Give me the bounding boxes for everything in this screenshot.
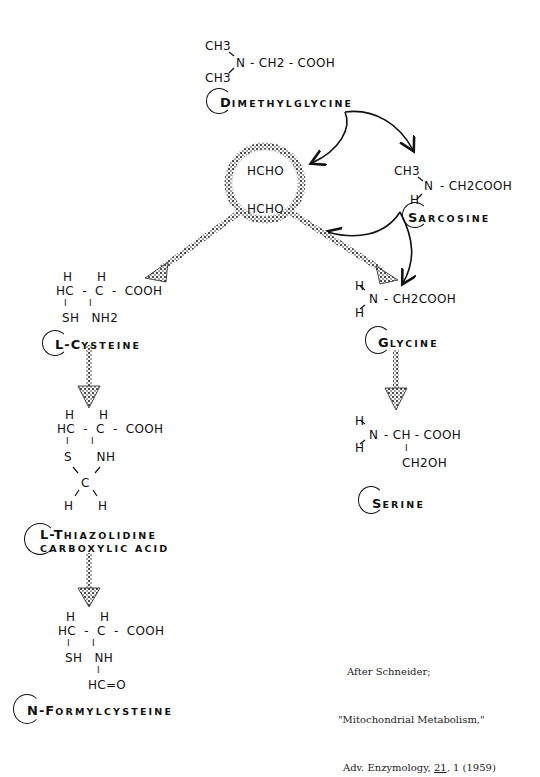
thz-row3: I I xyxy=(66,437,94,446)
sar-ch3: CH3 xyxy=(394,165,420,177)
gly-h-top: H xyxy=(355,280,364,292)
arrow-hcho-to-glycine xyxy=(290,212,382,270)
nfc-row5: I xyxy=(97,666,100,675)
citation-line1: After Schneider; xyxy=(343,664,496,680)
ser-h-bottom: H xyxy=(355,442,364,454)
thz-row1: H H xyxy=(65,409,108,421)
nfc-row3: I I xyxy=(67,639,95,648)
hcho-top: HCHO xyxy=(247,165,284,177)
nfc-row4: SH NH xyxy=(65,652,113,664)
ser-side: CH2OH xyxy=(402,457,447,469)
cys-row3: I I xyxy=(64,299,92,308)
thz-row2: HC - C - COOH xyxy=(57,423,163,435)
gly-n: N xyxy=(369,293,378,305)
citation-line3: Adv. Enzymology, 21, 1 (1959) xyxy=(343,760,496,776)
gly-h-bottom: H xyxy=(355,307,364,319)
nfc-row1: H H xyxy=(66,611,109,623)
ser-label: SERINE xyxy=(372,496,425,511)
dmg-n: N xyxy=(236,57,245,69)
ser-h-top: H xyxy=(355,415,364,427)
sar-label: SARCOSINE xyxy=(408,210,491,225)
hcho-bottom: HCHO xyxy=(247,203,284,215)
cys-row4: SH NH2 xyxy=(62,312,118,324)
dmg-chain: - CH2 - COOH xyxy=(250,57,335,69)
gly-label: GLYCINE xyxy=(378,335,439,350)
dmg-ch3-top: CH3 xyxy=(205,40,231,52)
dmg-ch3-bottom: CH3 xyxy=(205,72,231,84)
cys-row2: HC - C - COOH xyxy=(56,285,162,297)
arrow-hcho-to-cysteine xyxy=(162,212,240,268)
ser-n: N xyxy=(369,429,378,441)
dmg-label: DIMETHYLGLYCINE xyxy=(220,95,353,110)
thz-row5: C xyxy=(81,477,90,489)
thz-label-line2: CARBOXYLIC ACID xyxy=(40,543,169,554)
arrow-dmg-to-hcho xyxy=(312,112,347,163)
ser-bar: I xyxy=(405,444,408,453)
citation: After Schneider; "Mitochondrial Metaboli… xyxy=(343,632,496,777)
cys-label: L-CYSTEINE xyxy=(55,337,141,352)
ser-chain: - CH - COOH xyxy=(384,429,461,441)
thz-row4: S NH xyxy=(64,451,115,463)
thz-label-line1: L-THIAZOLIDINE xyxy=(40,527,157,542)
gly-chain: - CH2COOH xyxy=(384,293,456,305)
nfc-row6: HC=O xyxy=(88,679,126,691)
nfc-label: N-FORMYLCYSTEINE xyxy=(27,703,173,718)
arrow-dmg-to-sarcosine xyxy=(345,111,413,150)
cys-row1: H H xyxy=(63,271,106,283)
sar-chain: - CH2COOH xyxy=(440,180,512,192)
thz-row6: H H xyxy=(64,500,107,512)
nfc-row2: HC - C - COOH xyxy=(58,625,164,637)
arrow-sarcosine-to-hcho xyxy=(328,212,400,236)
citation-line2: "Mitochondrial Metabolism," xyxy=(338,712,496,728)
sar-n: N xyxy=(424,180,433,192)
